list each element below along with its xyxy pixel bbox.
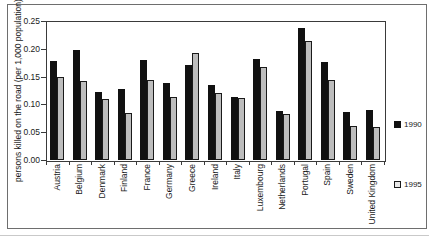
bar-1995-france bbox=[147, 80, 154, 160]
bar-1990-portugal bbox=[298, 28, 305, 160]
bar-1995-portugal bbox=[305, 41, 312, 160]
bar-1990-netherlands bbox=[276, 111, 283, 160]
x-label-greece: Greece bbox=[187, 164, 198, 226]
legend-marker-1995 bbox=[394, 181, 401, 188]
bar-1990-austria bbox=[50, 61, 57, 160]
x-label-sweden: Sweden bbox=[345, 164, 356, 226]
bar-1995-luxembourg bbox=[260, 67, 267, 160]
y-tick-label: 0.20 bbox=[10, 44, 40, 54]
legend-label-1990: 1990 bbox=[404, 120, 422, 129]
bar-1995-austria bbox=[57, 77, 64, 160]
x-tick-mark bbox=[114, 161, 115, 165]
x-tick-mark bbox=[46, 161, 47, 165]
page-bottom-rule bbox=[0, 235, 429, 236]
x-label-denmark: Denmark bbox=[97, 164, 108, 226]
x-label-germany: Germany bbox=[164, 164, 175, 226]
y-tick-mark bbox=[41, 132, 46, 133]
x-tick-mark bbox=[204, 161, 205, 165]
bar-1990-ireland bbox=[208, 85, 215, 160]
bar-1990-denmark bbox=[95, 92, 102, 160]
y-tick-mark bbox=[41, 49, 46, 50]
x-tick-mark bbox=[181, 161, 182, 165]
y-tick-mark bbox=[41, 104, 46, 105]
y-tick-label: 0.25 bbox=[10, 16, 40, 26]
legend-marker-1990 bbox=[394, 121, 401, 128]
x-tick-mark bbox=[136, 161, 137, 165]
bar-1995-spain bbox=[328, 80, 335, 160]
bar-1995-sweden bbox=[350, 126, 357, 160]
x-tick-mark bbox=[339, 161, 340, 165]
bar-1995-belgium bbox=[80, 81, 87, 160]
bar-1990-italy bbox=[231, 97, 238, 160]
bar-1990-france bbox=[140, 60, 147, 160]
y-tick-mark bbox=[41, 21, 46, 22]
x-label-luxembourg: Luxembourg bbox=[255, 164, 266, 226]
x-label-spain: Spain bbox=[322, 164, 333, 226]
bar-1990-greece bbox=[185, 65, 192, 160]
bar-1990-belgium bbox=[73, 50, 80, 160]
legend-label-1995: 1995 bbox=[404, 180, 422, 189]
bar-1995-germany bbox=[170, 97, 177, 160]
y-tick-label: 0.05 bbox=[10, 127, 40, 137]
x-tick-mark bbox=[361, 161, 362, 165]
y-tick-label: 0.00 bbox=[10, 155, 40, 165]
x-label-united-kingdom: United Kingdom bbox=[367, 164, 378, 226]
bar-1995-united-kingdom bbox=[373, 127, 380, 160]
x-label-netherlands: Netherlands bbox=[277, 164, 288, 226]
x-label-france: France bbox=[142, 164, 153, 226]
x-label-portugal: Portugal bbox=[300, 164, 311, 226]
x-label-finland: Finland bbox=[119, 164, 130, 226]
x-tick-mark bbox=[69, 161, 70, 165]
y-tick-mark bbox=[41, 77, 46, 78]
bar-1990-sweden bbox=[343, 112, 350, 160]
bar-1995-netherlands bbox=[283, 114, 290, 160]
x-tick-mark bbox=[271, 161, 272, 165]
x-tick-mark bbox=[316, 161, 317, 165]
x-label-austria: Austria bbox=[52, 164, 63, 226]
x-tick-mark bbox=[91, 161, 92, 165]
bar-1995-finland bbox=[125, 113, 132, 160]
x-tick-mark bbox=[294, 161, 295, 165]
x-tick-mark bbox=[226, 161, 227, 165]
bar-1990-finland bbox=[118, 89, 125, 160]
y-tick-label: 0.10 bbox=[10, 99, 40, 109]
x-label-italy: Italy bbox=[232, 164, 243, 226]
bar-1995-ireland bbox=[215, 93, 222, 160]
bar-1990-spain bbox=[321, 62, 328, 160]
bar-1990-germany bbox=[163, 83, 170, 160]
x-label-belgium: Belgium bbox=[74, 164, 85, 226]
x-label-ireland: Ireland bbox=[210, 164, 221, 226]
x-tick-mark bbox=[384, 161, 385, 165]
bar-1990-united-kingdom bbox=[366, 110, 373, 160]
bar-1995-denmark bbox=[102, 99, 109, 160]
bar-1995-greece bbox=[192, 53, 199, 160]
x-tick-mark bbox=[159, 161, 160, 165]
y-tick-label: 0.15 bbox=[10, 72, 40, 82]
bar-1995-italy bbox=[238, 98, 245, 160]
bar-1990-luxembourg bbox=[253, 59, 260, 160]
x-tick-mark bbox=[249, 161, 250, 165]
chart-page: persons killed on the road (per 1,000 po… bbox=[0, 0, 429, 239]
